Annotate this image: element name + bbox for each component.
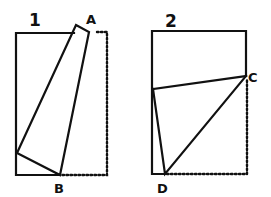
figure-2-fold-line [153,76,246,89]
paper-folding-diagram: 1 A B 2 C D [0,0,271,197]
figure-1: 1 A B [16,10,107,196]
point-c-label: C [248,70,258,85]
figure-2-number: 2 [165,11,177,31]
figure-2: 2 C D [152,11,258,196]
figure-2-folded-triangle [153,76,246,174]
figure-1-folded-strip [17,25,89,175]
figure-2-rectangle [152,31,246,174]
point-a-label: A [86,12,96,27]
point-b-label: B [54,181,64,196]
figure-1-number: 1 [29,10,41,30]
point-d-label: D [157,181,168,196]
figure-2-original-edge-dotted [167,80,247,174]
